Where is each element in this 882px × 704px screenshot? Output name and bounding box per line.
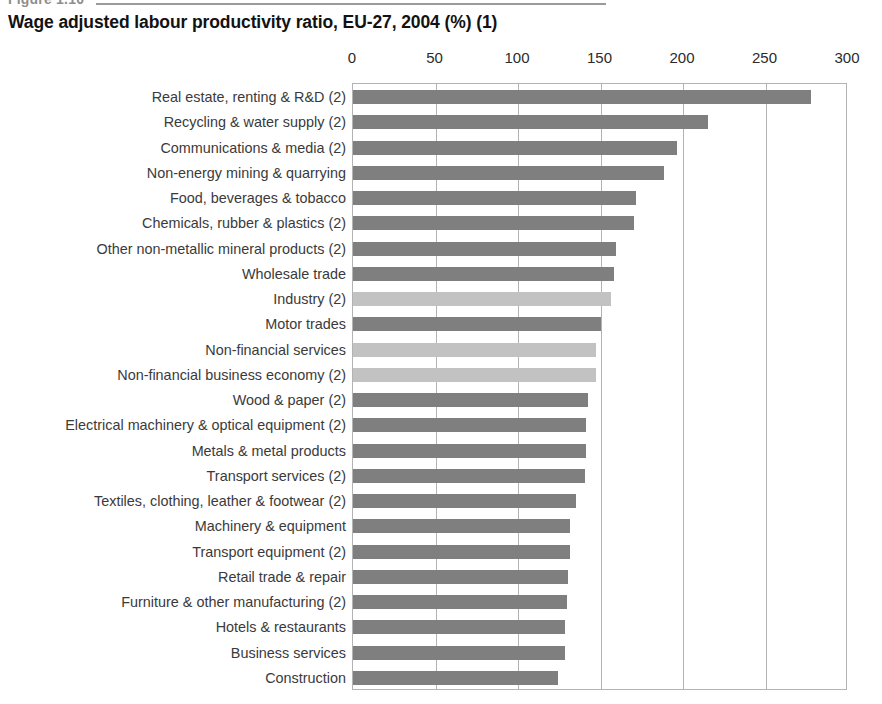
- bar-row: Non-financial services: [0, 337, 882, 362]
- category-label: Food, beverages & tobacco: [170, 190, 346, 206]
- category-label: Real estate, renting & R&D (2): [152, 89, 346, 105]
- bar: [353, 469, 585, 483]
- bar: [353, 646, 565, 660]
- category-label: Machinery & equipment: [195, 518, 346, 534]
- category-label: Non-financial business economy (2): [117, 367, 346, 383]
- bar-row: Hotels & restaurants: [0, 615, 882, 640]
- bar-row: Communications & media (2): [0, 135, 882, 160]
- bar-row: Other non-metallic mineral products (2): [0, 236, 882, 261]
- bar: [353, 343, 596, 357]
- bar-row: Transport equipment (2): [0, 539, 882, 564]
- x-axis-tick-label: 150: [587, 49, 612, 66]
- x-axis-tick-label: 100: [504, 49, 529, 66]
- category-label: Furniture & other manufacturing (2): [121, 594, 346, 610]
- category-label: Motor trades: [265, 316, 346, 332]
- bar-row: Furniture & other manufacturing (2): [0, 590, 882, 615]
- bar: [353, 267, 614, 281]
- category-label: Non-financial services: [205, 342, 346, 358]
- bar: [353, 418, 586, 432]
- category-label: Metals & metal products: [192, 443, 346, 459]
- category-label: Construction: [265, 670, 346, 686]
- bar: [353, 545, 570, 559]
- bar: [353, 166, 664, 180]
- bar: [353, 671, 558, 685]
- bar: [353, 595, 567, 609]
- bar-row: Chemicals, rubber & plastics (2): [0, 211, 882, 236]
- category-label: Industry (2): [273, 291, 346, 307]
- bar: [353, 115, 708, 129]
- bar: [353, 90, 811, 104]
- bar-row: Real estate, renting & R&D (2): [0, 85, 882, 110]
- bar-row: Non-energy mining & quarrying: [0, 160, 882, 185]
- bar-row: Construction: [0, 665, 882, 690]
- bar: [353, 317, 601, 331]
- bar: [353, 444, 586, 458]
- x-axis-tick-label: 0: [348, 49, 356, 66]
- bar-row: Wholesale trade: [0, 261, 882, 286]
- category-label: Transport equipment (2): [192, 544, 346, 560]
- bar-row: Machinery & equipment: [0, 514, 882, 539]
- bar-row: Wood & paper (2): [0, 388, 882, 413]
- bar-row: Metals & metal products: [0, 438, 882, 463]
- bar-row: Business services: [0, 640, 882, 665]
- bar-row: Motor trades: [0, 312, 882, 337]
- bar-row: Recycling & water supply (2): [0, 110, 882, 135]
- bar: [353, 242, 616, 256]
- bar: [353, 620, 565, 634]
- category-label: Wood & paper (2): [233, 392, 346, 408]
- x-axis-tick-label: 300: [834, 49, 859, 66]
- category-label: Communications & media (2): [160, 140, 346, 156]
- bar-row: Transport services (2): [0, 463, 882, 488]
- bar: [353, 368, 596, 382]
- bar: [353, 494, 576, 508]
- bar-row: Electrical machinery & optical equipment…: [0, 413, 882, 438]
- bar-chart: 050100150200250300 Real estate, renting …: [0, 0, 882, 704]
- category-label: Chemicals, rubber & plastics (2): [142, 215, 346, 231]
- bar: [353, 393, 588, 407]
- category-label: Textiles, clothing, leather & footwear (…: [94, 493, 346, 509]
- category-label: Retail trade & repair: [218, 569, 346, 585]
- category-label: Wholesale trade: [242, 266, 346, 282]
- bar: [353, 519, 570, 533]
- bar-row: Food, beverages & tobacco: [0, 186, 882, 211]
- x-axis-tick-label: 250: [752, 49, 777, 66]
- x-axis-tick-label: 50: [426, 49, 443, 66]
- bar-row: Industry (2): [0, 287, 882, 312]
- category-label: Non-energy mining & quarrying: [147, 165, 346, 181]
- bar: [353, 216, 634, 230]
- category-label: Hotels & restaurants: [216, 619, 346, 635]
- bar: [353, 292, 611, 306]
- bar: [353, 570, 568, 584]
- bar-row: Retail trade & repair: [0, 564, 882, 589]
- category-label: Electrical machinery & optical equipment…: [65, 417, 346, 433]
- bar: [353, 191, 636, 205]
- bar: [353, 141, 677, 155]
- category-label: Transport services (2): [207, 468, 346, 484]
- category-label: Other non-metallic mineral products (2): [96, 241, 346, 257]
- bar-row: Non-financial business economy (2): [0, 362, 882, 387]
- x-axis-tick-label: 200: [669, 49, 694, 66]
- bar-row: Textiles, clothing, leather & footwear (…: [0, 489, 882, 514]
- category-label: Business services: [231, 645, 346, 661]
- category-label: Recycling & water supply (2): [164, 114, 346, 130]
